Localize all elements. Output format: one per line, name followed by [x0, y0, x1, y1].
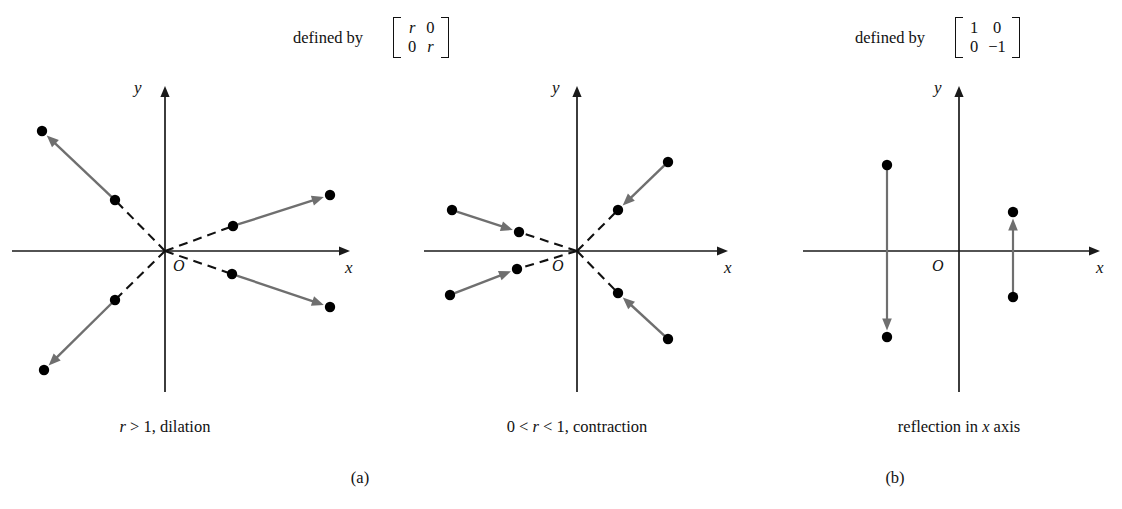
matrix-cell-1-0: 0 — [965, 37, 983, 56]
matrix-cell-0-0: 1 — [965, 18, 983, 37]
point-inner-lower-left — [512, 264, 522, 274]
origin-label-reflection: O — [932, 258, 944, 274]
caption-pre: 0 < — [507, 417, 533, 436]
point-inner-upper-right — [228, 221, 238, 231]
y-axis-label-contraction: y — [552, 79, 560, 96]
point-inner-upper-left — [514, 227, 524, 237]
plot-dilation — [12, 86, 350, 392]
arrow-shaft-upper-left — [457, 212, 505, 228]
defined-by-label-b: defined by — [855, 30, 925, 47]
point-inner-lower-left — [110, 295, 120, 305]
matrix-b: 100−1 — [946, 17, 1020, 58]
matrix-row: 0r — [403, 37, 440, 56]
x-axis-arrowhead — [339, 246, 350, 255]
arrow-shaft-upper-right — [629, 165, 664, 199]
matrix-cell-0-0: r — [403, 18, 421, 37]
arrow-head-upper-left — [500, 221, 513, 231]
matrix-table-a: r00r — [403, 18, 440, 57]
point-outer-lower-right — [325, 302, 335, 312]
matrix-cell-1-0: 0 — [403, 37, 421, 56]
matrix-cell-0-1: 0 — [421, 18, 439, 37]
dashed-segment-upper-right — [165, 226, 233, 251]
matrix-row: r0 — [403, 18, 440, 37]
point-image-right-pair — [1008, 207, 1018, 217]
caption-post: > 1, dilation — [126, 417, 210, 436]
matrix-bracket-right — [1012, 17, 1020, 58]
y-axis-label-dilation: y — [134, 79, 142, 96]
plot-contraction — [424, 86, 728, 392]
point-inner-lower-right — [613, 288, 623, 298]
plot-caption-dilation: r > 1, dilation — [120, 419, 211, 436]
dashed-segment-lower-right — [577, 251, 618, 293]
matrix-bracket-left — [393, 17, 401, 58]
matrix-table-b: 100−1 — [965, 18, 1011, 57]
x-axis-label-contraction: x — [724, 259, 732, 276]
plot-caption-contraction: 0 < r < 1, contraction — [507, 419, 648, 436]
linear-transformation-figure: defined byr00ryxOr > 1, dilationyxO0 < r… — [0, 0, 1122, 509]
caption-post: < 1, contraction — [539, 417, 647, 436]
dashed-segment-lower-left — [517, 251, 577, 269]
arrow-head-upper-right — [311, 196, 324, 206]
dashed-segment-lower-left — [115, 251, 165, 300]
matrix-bracket-left — [955, 17, 963, 58]
point-outer-upper-left — [37, 126, 47, 136]
arrow-shaft-lower-left — [55, 304, 111, 360]
point-outer-lower-right — [663, 334, 673, 344]
matrix-body-a: r00r — [393, 17, 449, 58]
y-axis-arrowhead — [160, 86, 169, 97]
matrix-cell-1-1: r — [421, 37, 439, 56]
arrow-shaft-lower-left — [455, 275, 503, 294]
x-axis-arrowhead — [1089, 246, 1100, 255]
matrix-body-b: 100−1 — [955, 17, 1020, 58]
y-axis-label-reflection: y — [934, 79, 942, 96]
dashed-segment-upper-right — [577, 210, 618, 251]
matrix-cell-1-1: −1 — [983, 37, 1011, 56]
arrow-head-left-pair — [882, 319, 892, 331]
arrow-head-lower-right — [311, 296, 324, 305]
origin-label-contraction: O — [552, 258, 564, 274]
arrow-shaft-lower-right — [237, 276, 316, 302]
point-inner-upper-left — [110, 195, 120, 205]
matrix-a: r00r — [384, 17, 449, 58]
point-outer-upper-right — [663, 157, 673, 167]
matrix-row: 10 — [965, 18, 1011, 37]
dashed-segment-upper-left — [115, 200, 165, 251]
defined-by-label-a: defined by — [293, 30, 363, 47]
arrow-shaft-lower-right — [629, 303, 664, 335]
point-image-left-pair — [882, 332, 892, 342]
point-outer-lower-left — [445, 290, 455, 300]
point-outer-upper-right — [325, 190, 335, 200]
caption-variable: x — [982, 417, 989, 436]
plot-caption-reflection: reflection in x axis — [898, 419, 1020, 436]
dashed-segment-upper-left — [519, 232, 577, 251]
y-axis-arrowhead — [572, 86, 581, 97]
x-axis-label-dilation: x — [345, 259, 353, 276]
point-outer-upper-left — [447, 205, 457, 215]
caption-post: axis — [989, 417, 1020, 436]
x-axis-label-reflection: x — [1096, 259, 1104, 276]
point-source-left-pair — [882, 160, 892, 170]
arrow-head-right-pair — [1008, 219, 1018, 231]
matrix-row: 0−1 — [965, 37, 1011, 56]
panel-label-a: (a) — [351, 470, 369, 487]
y-axis-arrowhead — [954, 86, 963, 97]
arrow-shaft-upper-left — [53, 142, 111, 197]
panel-label-b: (b) — [885, 470, 904, 487]
point-inner-upper-right — [613, 205, 623, 215]
point-outer-lower-left — [39, 365, 49, 375]
point-source-right-pair — [1008, 292, 1018, 302]
matrix-bracket-right — [441, 17, 449, 58]
matrix-cell-0-1: 0 — [983, 18, 1011, 37]
caption-pre: reflection in — [898, 417, 982, 436]
x-axis-arrowhead — [717, 246, 728, 255]
origin-label-dilation: O — [173, 258, 185, 274]
arrow-shaft-upper-right — [238, 200, 315, 225]
plot-reflection — [803, 86, 1100, 392]
arrow-head-lower-left — [498, 271, 511, 280]
point-inner-lower-right — [227, 269, 237, 279]
